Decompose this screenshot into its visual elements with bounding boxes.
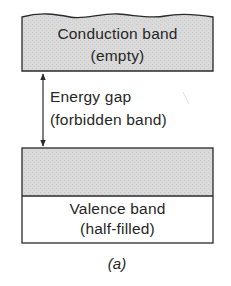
figure-caption: (a) bbox=[97, 255, 137, 272]
valence-band-filled-region bbox=[22, 148, 213, 196]
energy-gap-label: Energy gap bbox=[50, 88, 131, 106]
conduction-band-sublabel: (empty) bbox=[22, 47, 213, 65]
valence-band-sublabel: (half-filled) bbox=[22, 220, 213, 238]
valence-band-label: Valence band bbox=[22, 200, 213, 218]
conduction-band-label: Conduction band bbox=[22, 25, 213, 43]
scan-artifact bbox=[183, 92, 189, 104]
energy-gap-sublabel: (forbidden band) bbox=[50, 111, 167, 129]
